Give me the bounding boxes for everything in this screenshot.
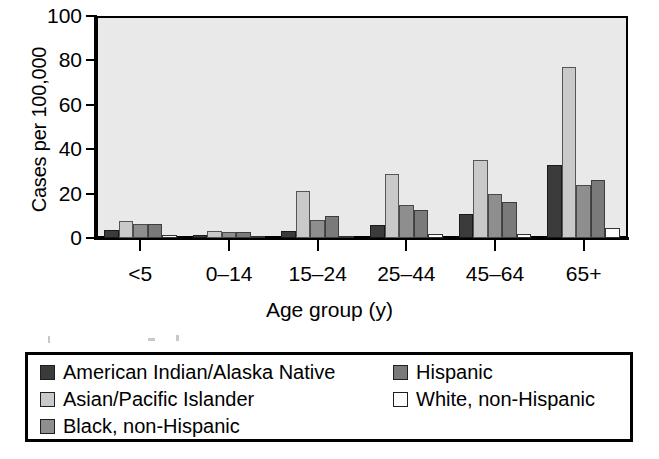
legend-item-label: Asian/Pacific Islander [63,389,254,409]
x-axis-title: Age group (y) [0,298,659,322]
y-tick [86,59,95,61]
legend-item: Asian/Pacific Islander [40,389,254,409]
bar [119,221,134,238]
x-tick [583,240,585,251]
bar [488,194,503,238]
bar [339,236,354,238]
bar [576,185,591,238]
bar [236,232,251,238]
y-tick-label: 40 [18,138,82,159]
bar [562,67,577,238]
x-tick-label: 45–64 [445,262,545,286]
bar [281,231,296,238]
bar [370,225,385,238]
x-tick [228,240,230,251]
legend-swatch-icon [40,419,55,434]
bar [428,234,443,238]
y-tick-label: 80 [18,49,82,70]
bar [148,224,163,238]
legend-item-label: Black, non-Hispanic [63,416,240,436]
x-tick [139,240,141,251]
scan-artifact [176,335,179,341]
bar [414,210,429,238]
bar [296,191,311,238]
legend-item: White, non-Hispanic [393,389,595,409]
bar [502,202,517,238]
legend-swatch-icon [40,365,55,380]
legend-item: Black, non-Hispanic [40,416,240,436]
bar [251,236,266,238]
bar-chart-figure: Cases per 100,000 020406080100 <50–1415–… [0,0,659,459]
x-tick [317,240,319,251]
legend-swatch-icon [393,392,408,407]
x-tick-label: 0–14 [179,262,279,286]
legend-item-label: Hispanic [416,362,493,382]
bar [133,224,148,238]
bar [104,230,119,238]
scan-artifact [148,338,155,341]
legend-item: American Indian/Alaska Native [40,362,335,382]
plot-area [96,16,628,238]
scan-artifact [48,336,50,343]
bar [517,234,532,238]
bar [547,165,562,238]
y-axis-title: Cases per 100,000 [28,5,51,255]
bar [325,216,340,238]
y-tick [86,15,95,17]
bar [385,174,400,238]
x-tick [494,240,496,251]
x-tick-label: 65+ [534,262,634,286]
bar [222,232,237,238]
legend-swatch-icon [40,392,55,407]
bar [310,220,325,238]
chart-legend: American Indian/Alaska NativeAsian/Pacif… [25,352,633,442]
x-tick-label: 25–44 [356,262,456,286]
x-tick-label: 15–24 [268,262,368,286]
y-tick [86,148,95,150]
legend-swatch-icon [393,365,408,380]
y-tick [86,193,95,195]
bar [399,205,414,238]
bar [473,160,488,238]
legend-item: Hispanic [393,362,493,382]
bar [193,235,208,238]
legend-item-label: White, non-Hispanic [416,389,595,409]
legend-item-label: American Indian/Alaska Native [63,362,335,382]
x-tick-label: <5 [90,262,190,286]
y-tick-label: 60 [18,94,82,115]
y-tick [86,237,95,239]
y-tick-label: 20 [18,183,82,204]
bar [605,228,620,238]
bar [207,231,222,238]
y-tick-label: 0 [18,227,82,248]
bar [591,180,606,238]
y-tick [86,104,95,106]
x-tick [405,240,407,251]
bar [459,214,474,238]
bar [162,235,177,238]
y-tick-label: 100 [18,5,82,26]
